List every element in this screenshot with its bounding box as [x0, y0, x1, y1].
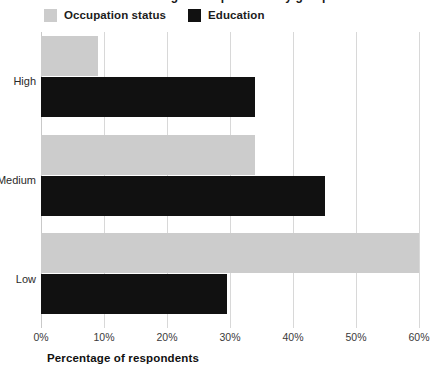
gridline — [419, 32, 420, 328]
legend-swatch-education — [188, 9, 201, 22]
x-axis-tick-label: 10% — [93, 331, 114, 343]
bar-group — [41, 135, 419, 226]
x-axis-tick-label: 0% — [33, 331, 48, 343]
bar-group — [41, 233, 419, 324]
x-axis-tick-label: 20% — [156, 331, 177, 343]
y-axis-label: High — [13, 75, 36, 87]
bar — [41, 36, 98, 76]
x-axis-tick-label: 40% — [282, 331, 303, 343]
chart-legend: Occupation statusEducation — [44, 6, 265, 24]
legend-swatch-occupation-status — [44, 9, 57, 22]
bar — [41, 233, 419, 273]
bar — [41, 135, 255, 175]
y-axis-label: Low — [16, 273, 36, 285]
chart-title-text: Percentage of respondents by group — [120, 0, 329, 3]
legend-label: Occupation status — [64, 9, 166, 21]
bar-chart: Percentage of respondents by group Occup… — [0, 0, 432, 375]
bar-group — [41, 36, 419, 127]
bar — [41, 176, 325, 216]
x-axis-tick-label: 50% — [345, 331, 366, 343]
x-axis-tick-label: 30% — [219, 331, 240, 343]
chart-title-cropped: Percentage of respondents by group — [0, 0, 432, 3]
plot-area — [41, 32, 419, 328]
x-axis-tick-labels: 0%10%20%30%40%50%60% — [41, 331, 419, 347]
legend-item: Occupation status — [44, 9, 166, 22]
bar-groups — [41, 32, 419, 328]
x-axis-tick-label: 60% — [408, 331, 429, 343]
legend-item: Education — [188, 9, 265, 22]
y-axis-labels: HighMediumLow — [0, 32, 36, 328]
x-axis-title: Percentage of respondents — [47, 352, 199, 364]
y-axis-label: Medium — [0, 174, 36, 186]
bar — [41, 77, 255, 117]
bar — [41, 274, 227, 314]
legend-label: Education — [208, 9, 265, 21]
